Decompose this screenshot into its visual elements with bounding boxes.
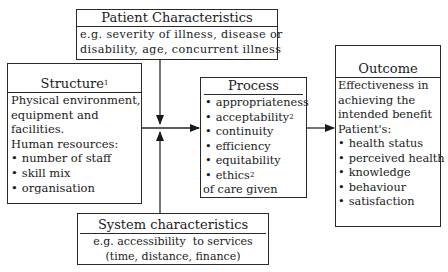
process-bullet: continuity (205, 125, 304, 140)
patient-detail-line: disability, age, concurrent illness (80, 42, 274, 57)
structure-title: Structure1 (8, 76, 141, 93)
process-bullet-text: acceptability (216, 111, 290, 124)
structure-bullet: number of staff (11, 151, 138, 166)
outcome-detail-line: Effectiveness in (338, 79, 438, 94)
outcome-box: Outcome Effectiveness in achieving the i… (335, 45, 441, 227)
outcome-detail-line: intended benefit (338, 108, 438, 123)
process-bullet-text: equitability (216, 154, 281, 167)
process-footer: of care given (203, 183, 304, 198)
system-characteristics-title: System characteristics (80, 217, 266, 234)
structure-footnote-mark: 1 (104, 79, 108, 87)
outcome-detail-line: Patient's: (338, 123, 438, 138)
outcome-bullet: satisfaction (338, 195, 438, 210)
process-box: Process appropriateness acceptability2 c… (200, 77, 307, 198)
structure-bullet: skill mix (11, 166, 138, 181)
footnote-mark: 2 (250, 171, 254, 179)
outcome-detail-line: achieving the (338, 94, 438, 109)
structure-detail-line: equipment and (11, 108, 138, 123)
structure-detail-line: Human resources: (11, 137, 138, 152)
patient-characteristics-title: Patient Characteristics (77, 10, 277, 27)
patient-detail-line: e.g. severity of illness, disease or (80, 27, 274, 42)
outcome-bullet: behaviour (338, 181, 438, 196)
footnote-mark: 2 (289, 113, 293, 121)
process-bullet-text: ethics (216, 169, 250, 182)
patient-characteristics-box: Patient Characteristics e.g. severity of… (76, 9, 278, 60)
process-bullet-text: appropriateness (216, 96, 309, 109)
system-detail-line: e.g. accessibility to services (81, 235, 265, 250)
structure-detail-line: Physical environment, (11, 93, 138, 108)
process-bullet: ethics2 (205, 169, 304, 184)
structure-title-text: Structure (41, 76, 105, 91)
structure-detail-line: facilities. (11, 122, 138, 137)
process-bullet-text: efficiency (216, 140, 271, 153)
process-bullet-text: continuity (216, 125, 274, 138)
process-bullet: equitability (205, 154, 304, 169)
outcome-title: Outcome (336, 61, 440, 78)
outcome-bullet: health status (338, 137, 438, 152)
process-bullet: efficiency (205, 140, 304, 155)
process-bullet: acceptability2 (205, 111, 304, 126)
outcome-bullet: knowledge (338, 166, 438, 181)
outcome-bullet: perceived health (338, 152, 438, 167)
structure-box: Structure1 Physical environment, equipme… (7, 63, 142, 204)
system-detail-line: (time, distance, finance) (81, 250, 265, 265)
system-characteristics-box: System characteristics e.g. accessibilit… (77, 213, 269, 265)
structure-bullet: organisation (11, 181, 138, 196)
process-bullet: appropriateness (205, 96, 304, 111)
process-title: Process (204, 78, 303, 95)
